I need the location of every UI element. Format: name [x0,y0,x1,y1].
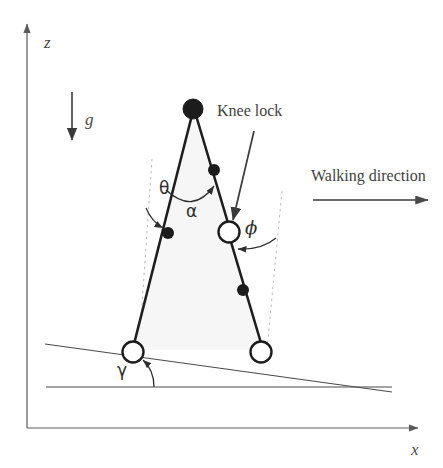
theta-angle-label: θ [159,180,169,197]
walking-direction-label: Walking direction [311,168,426,184]
gamma-arc [143,360,154,387]
hip-joint [183,99,203,119]
ground-group [45,344,392,392]
stance-leg-mass [162,227,174,239]
x-axis-label: x [411,441,419,458]
leg-shaded-region [133,112,261,350]
theta-arc [146,208,163,228]
knee-lock-arrow [233,131,254,220]
swing-thigh-mass [208,164,220,176]
alpha-angle-label: α [186,203,197,220]
swing-shank-mass [237,284,249,296]
swing-normal-dashed-line [267,191,282,350]
gravity-label: g [85,111,94,128]
phi-angle-label: ϕ [245,219,257,237]
slope-line [45,344,392,392]
swing-foot-joint [251,342,272,363]
knee-joint [219,222,240,243]
gamma-angle-label: γ [117,362,127,379]
diagram-vector-layer [0,0,443,468]
z-axis-label: z [44,34,51,51]
figure-canvas: z x g Knee lock Walking direction θ α ϕ … [0,0,443,468]
knee-lock-label: Knee lock [217,103,282,119]
phi-arc [238,238,276,249]
